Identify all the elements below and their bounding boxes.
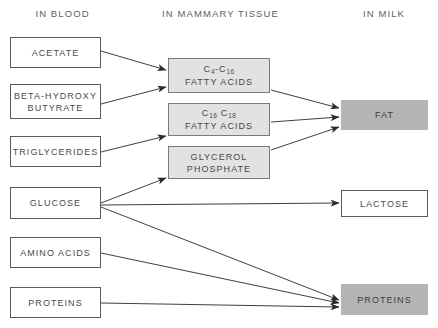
node-label-line1: C4-C16 bbox=[203, 64, 234, 74]
arrow-glucose-to-lactose bbox=[101, 203, 339, 205]
node-proteins-milk[interactable]: PROTEINS bbox=[341, 284, 428, 315]
node-label-line1: ACETATE bbox=[32, 48, 80, 58]
milk-synthesis-diagram: IN BLOODIN MAMMARY TISSUEIN MILK ACETATE… bbox=[0, 0, 438, 328]
node-amino-acids[interactable]: AMINO ACIDS bbox=[10, 237, 101, 268]
node-c4-c16-fatty-acids[interactable]: C4-C16FATTY ACIDS bbox=[168, 58, 270, 93]
node-label-acetate: ACETATE bbox=[32, 47, 80, 59]
node-proteins-blood[interactable]: PROTEINS bbox=[10, 287, 101, 318]
arrow-glycerol-phosphate-to-fat bbox=[271, 127, 339, 150]
node-label-line2: BUTYRATE bbox=[14, 102, 97, 114]
node-label-line1: GLYCEROL bbox=[191, 152, 248, 162]
node-label-c16-c18-fatty-acids: C16 C18FATTY ACIDS bbox=[185, 107, 253, 132]
node-acetate[interactable]: ACETATE bbox=[10, 37, 101, 68]
node-triglycerides[interactable]: TRIGLYCERIDES bbox=[10, 136, 101, 167]
column-header-in-mammary-tissue: IN MAMMARY TISSUE bbox=[148, 8, 293, 19]
node-label-line2: FATTY ACIDS bbox=[185, 120, 253, 132]
arrow-acetate-to-c4c16 bbox=[101, 51, 166, 70]
node-label-line1: PROTEINS bbox=[28, 298, 82, 308]
arrow-glucose-to-proteins-milk bbox=[101, 207, 339, 300]
node-label-line1: C16 C18 bbox=[202, 108, 237, 118]
node-label-proteins-blood: PROTEINS bbox=[28, 297, 82, 309]
node-label-glucose: GLUCOSE bbox=[30, 197, 81, 209]
node-label-line1: LACTOSE bbox=[360, 199, 409, 209]
node-c16-c18-fatty-acids[interactable]: C16 C18FATTY ACIDS bbox=[168, 103, 270, 136]
node-label-amino-acids: AMINO ACIDS bbox=[20, 247, 91, 259]
node-label-proteins-milk: PROTEINS bbox=[357, 294, 411, 306]
arrow-beta-hydroxy-to-c4c16 bbox=[101, 87, 166, 104]
node-label-line1: TRIGLYCERIDES bbox=[13, 147, 99, 157]
node-label-fat: FAT bbox=[375, 109, 394, 121]
node-label-line1: FAT bbox=[375, 110, 394, 120]
arrow-glucose-to-glycerol-phosphate bbox=[101, 178, 166, 203]
node-label-line1: BETA-HYDROXY bbox=[14, 91, 97, 101]
node-label-line2: PHOSPHATE bbox=[187, 163, 251, 175]
arrow-c16c18-to-fat bbox=[271, 117, 339, 122]
node-lactose[interactable]: LACTOSE bbox=[341, 190, 428, 217]
node-label-c4-c16-fatty-acids: C4-C16FATTY ACIDS bbox=[185, 63, 253, 88]
node-fat[interactable]: FAT bbox=[341, 100, 428, 130]
node-label-beta-hydroxy-butyrate: BETA-HYDROXYBUTYRATE bbox=[14, 90, 97, 114]
node-label-triglycerides: TRIGLYCERIDES bbox=[13, 146, 99, 158]
arrow-c4c16-to-fat bbox=[271, 90, 339, 108]
node-label-line1: GLUCOSE bbox=[30, 198, 81, 208]
node-glucose[interactable]: GLUCOSE bbox=[10, 187, 101, 219]
arrow-proteins-blood-to-proteins-milk bbox=[101, 303, 339, 307]
node-label-lactose: LACTOSE bbox=[360, 198, 409, 210]
arrow-triglycerides-to-c16c18 bbox=[101, 136, 166, 152]
column-header-in-milk: IN MILK bbox=[338, 8, 430, 19]
node-label-line1: AMINO ACIDS bbox=[20, 248, 91, 258]
arrow-amino-acids-to-proteins-milk bbox=[101, 253, 339, 303]
node-beta-hydroxy-butyrate[interactable]: BETA-HYDROXYBUTYRATE bbox=[10, 84, 101, 119]
node-label-line2: FATTY ACIDS bbox=[185, 76, 253, 88]
column-header-in-blood: IN BLOOD bbox=[15, 8, 110, 19]
node-glycerol-phosphate[interactable]: GLYCEROLPHOSPHATE bbox=[168, 146, 270, 179]
node-label-line1: PROTEINS bbox=[357, 295, 411, 305]
node-label-glycerol-phosphate: GLYCEROLPHOSPHATE bbox=[187, 151, 251, 175]
